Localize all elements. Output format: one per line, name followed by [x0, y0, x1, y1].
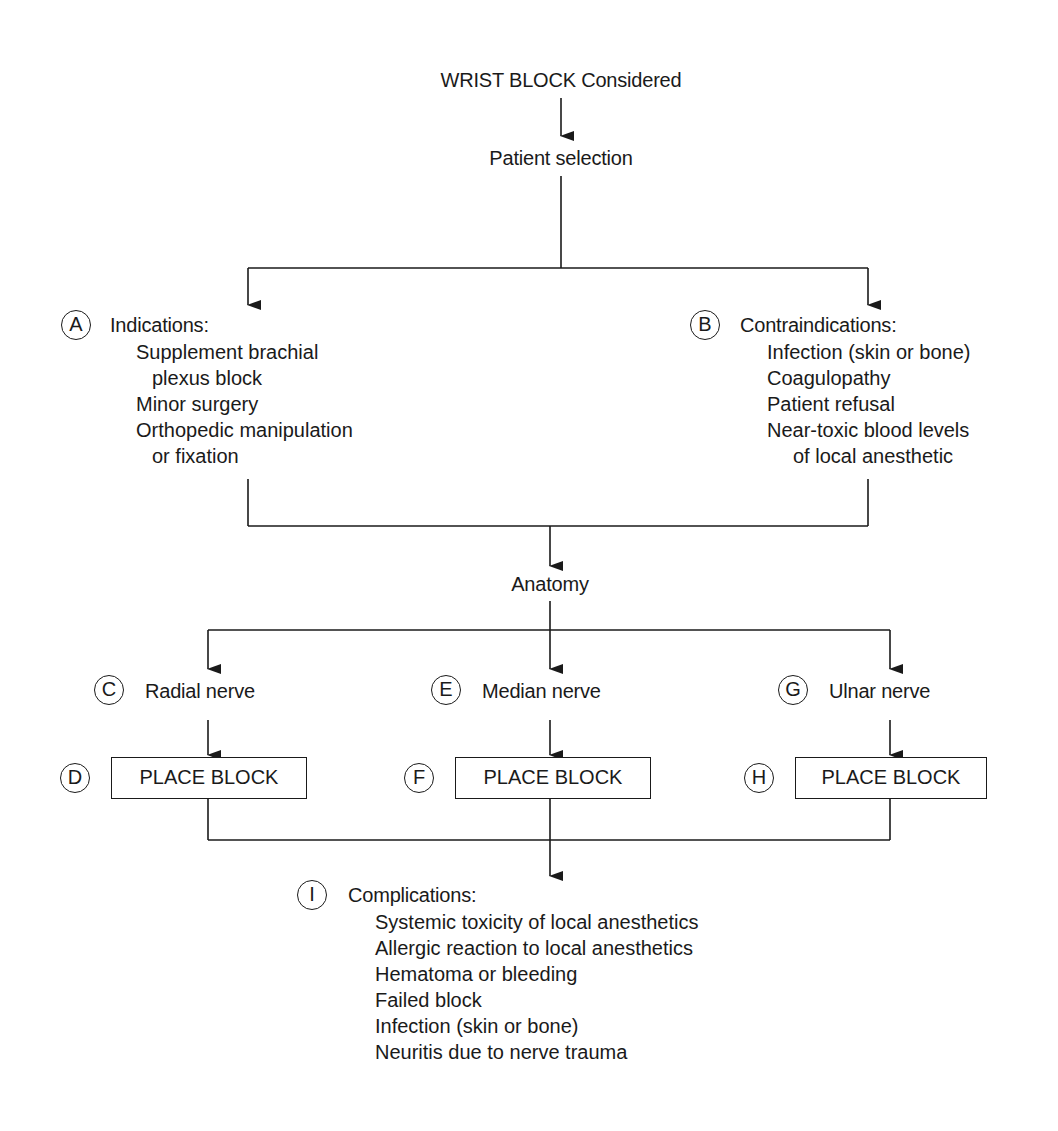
list-item: Allergic reaction to local anesthetics	[375, 935, 698, 961]
list-item: Near-toxic blood levels	[767, 417, 970, 443]
place-block-radial: PLACE BLOCK	[111, 757, 307, 799]
marker-i: I	[297, 880, 327, 910]
marker-b: B	[690, 310, 720, 340]
list-item: Minor surgery	[136, 391, 353, 417]
contraindications-list: Infection (skin or bone) Coagulopathy Pa…	[767, 339, 970, 469]
step-patient-selection: Patient selection	[489, 146, 632, 170]
indications-heading: Indications:	[110, 313, 209, 337]
marker-f: F	[404, 763, 434, 793]
list-item: Systemic toxicity of local anesthetics	[375, 909, 698, 935]
marker-e: E	[431, 675, 461, 705]
step-anatomy: Anatomy	[511, 572, 589, 596]
complications-list: Systemic toxicity of local anesthetics A…	[375, 909, 698, 1065]
list-item: Coagulopathy	[767, 365, 970, 391]
marker-h: H	[744, 763, 774, 793]
marker-a: A	[61, 310, 91, 340]
list-item: Failed block	[375, 987, 698, 1013]
nerve-radial: Radial nerve	[145, 679, 255, 703]
list-item: or fixation	[136, 443, 353, 469]
list-item: Hematoma or bleeding	[375, 961, 698, 987]
marker-c: C	[94, 675, 124, 705]
contraindications-heading: Contraindications:	[740, 313, 897, 337]
list-item: Infection (skin or bone)	[767, 339, 970, 365]
nerve-ulnar: Ulnar nerve	[829, 679, 930, 703]
list-item: Neuritis due to nerve trauma	[375, 1039, 698, 1065]
list-item: Patient refusal	[767, 391, 970, 417]
place-block-median: PLACE BLOCK	[455, 757, 651, 799]
list-item: Orthopedic manipulation	[136, 417, 353, 443]
nerve-median: Median nerve	[482, 679, 601, 703]
complications-heading: Complications:	[348, 883, 476, 907]
list-item: of local anesthetic	[767, 443, 970, 469]
indications-list: Supplement brachial plexus block Minor s…	[136, 339, 353, 469]
marker-g: G	[778, 675, 808, 705]
marker-d: D	[60, 763, 90, 793]
list-item: plexus block	[136, 365, 353, 391]
flowchart-title: WRIST BLOCK Considered	[441, 68, 682, 92]
list-item: Supplement brachial	[136, 339, 353, 365]
place-block-ulnar: PLACE BLOCK	[795, 757, 987, 799]
list-item: Infection (skin or bone)	[375, 1013, 698, 1039]
